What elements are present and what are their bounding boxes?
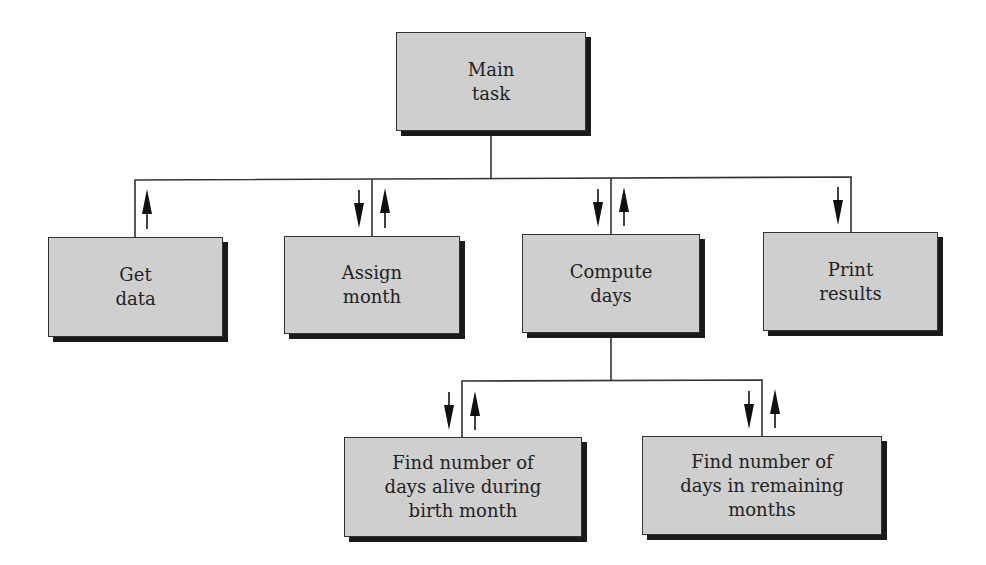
box-label: Assign month (342, 261, 402, 309)
data-flow-arrows (142, 187, 843, 430)
box-days-remaining-months: Find number of days in remaining months (642, 436, 882, 535)
arrow-down-icon (354, 190, 364, 228)
box-label: Print results (819, 258, 881, 306)
box-label: Find number of days alive during birth m… (385, 451, 542, 523)
arrow-up-icon (619, 187, 629, 226)
box-assign-month: Assign month (284, 236, 460, 334)
box-days-birth-month: Find number of days alive during birth m… (344, 437, 582, 537)
box-label: Compute days (570, 260, 653, 308)
box-compute-days: Compute days (522, 234, 700, 333)
box-main-task: Main task (396, 32, 586, 131)
arrow-up-icon (142, 189, 152, 229)
arrow-up-icon (470, 391, 480, 430)
arrow-up-icon (770, 389, 780, 428)
arrow-down-icon (444, 392, 454, 430)
box-label: Main task (468, 58, 515, 106)
box-get-data: Get data (48, 237, 223, 337)
arrow-up-icon (380, 188, 390, 228)
arrow-down-icon (744, 391, 754, 429)
arrow-down-icon (593, 189, 603, 227)
arrow-down-icon (833, 187, 843, 225)
box-label: Find number of days in remaining months (680, 450, 844, 522)
box-print-results: Print results (763, 232, 938, 331)
box-label: Get data (115, 263, 155, 311)
structure-chart: Main task Get data Assign month Compute … (0, 0, 986, 565)
